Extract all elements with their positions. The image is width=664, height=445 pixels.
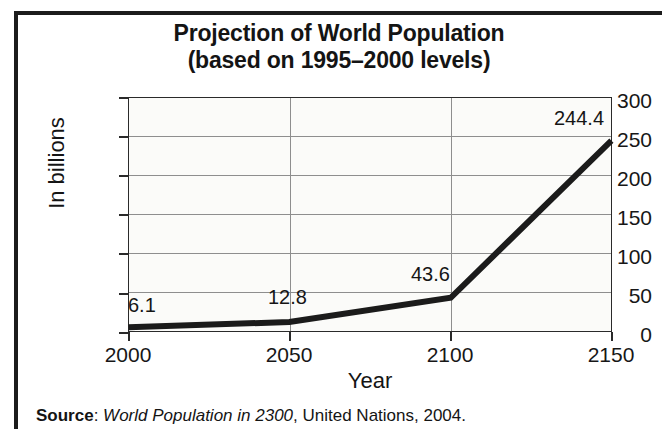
figure-border-top bbox=[14, 11, 662, 15]
source-separator: : bbox=[94, 406, 103, 425]
point-label-2100: 43.6 bbox=[411, 264, 450, 284]
source-label: Source bbox=[36, 406, 94, 425]
y-tick-mark-50 bbox=[119, 293, 128, 295]
x-axis-title: Year bbox=[128, 368, 612, 394]
x-tick-mark-2100 bbox=[450, 332, 452, 341]
figure-border-left bbox=[14, 11, 18, 429]
point-label-2000: 6.1 bbox=[128, 295, 156, 315]
y-axis-title: In billions bbox=[44, 73, 70, 253]
chart-title-line-2: (based on 1995–2000 levels) bbox=[22, 47, 656, 74]
x-tick-mark-2050 bbox=[289, 332, 291, 341]
data-series-line bbox=[128, 97, 612, 332]
source-rest: , United Nations, 2004. bbox=[293, 406, 466, 425]
x-tick-mark-2000 bbox=[128, 332, 130, 341]
y-tick-mark-100 bbox=[119, 253, 128, 255]
y-tick-mark-150 bbox=[119, 214, 128, 216]
x-tick-label-2050: 2050 bbox=[229, 344, 349, 365]
figure-container: Projection of World Population (based on… bbox=[0, 0, 664, 445]
x-tick-label-2150: 2150 bbox=[551, 344, 664, 365]
chart-title: Projection of World Population (based on… bbox=[22, 20, 656, 74]
y-tick-mark-200 bbox=[119, 175, 128, 177]
source-note: Source: World Population in 2300, United… bbox=[36, 405, 466, 426]
x-tick-mark-2150 bbox=[611, 332, 613, 341]
source-publication-title: World Population in 2300 bbox=[103, 406, 293, 425]
chart-title-line-1: Projection of World Population bbox=[174, 20, 505, 46]
y-tick-mark-250 bbox=[119, 136, 128, 138]
point-label-2150: 244.4 bbox=[554, 108, 604, 128]
x-tick-label-2000: 2000 bbox=[68, 344, 188, 365]
y-tick-mark-0 bbox=[119, 332, 128, 334]
y-tick-mark-300 bbox=[119, 97, 128, 99]
x-tick-label-2100: 2100 bbox=[390, 344, 510, 365]
point-label-2050: 12.8 bbox=[268, 287, 307, 307]
